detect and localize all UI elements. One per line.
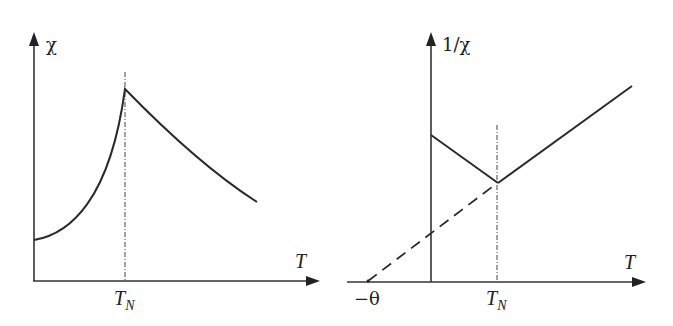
right-x-axis-label: T <box>624 251 637 273</box>
chi-vs-t-plot: χ T TN <box>33 34 308 313</box>
theta-tick-label: −θ <box>354 288 380 309</box>
right-y-axis-label: 1/χ <box>442 34 471 55</box>
right-tn-tick-label: TN <box>486 287 507 313</box>
curie-weiss-extrapolation <box>368 184 496 281</box>
inverse-chi-below-tn <box>431 135 498 183</box>
left-y-axis-label: χ <box>46 34 57 55</box>
chi-curve <box>34 89 257 240</box>
inverse-chi-above-tn <box>498 86 632 183</box>
theta-point <box>367 280 370 283</box>
figure: χ T TN 1/χ T −θ TN <box>0 0 673 326</box>
inverse-chi-vs-t-plot: 1/χ T −θ TN <box>347 34 637 313</box>
left-tn-tick-label: TN <box>114 287 135 313</box>
left-x-axis-label: T <box>295 250 308 272</box>
